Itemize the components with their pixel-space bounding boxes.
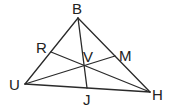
label-H: H	[152, 86, 163, 103]
label-M: M	[119, 47, 132, 64]
label-J: J	[83, 91, 91, 108]
triangle-diagram: BUHRMJV	[0, 0, 174, 112]
label-B: B	[72, 0, 82, 17]
segment-BU	[25, 18, 78, 84]
label-V: V	[83, 48, 93, 65]
label-R: R	[36, 39, 47, 56]
label-U: U	[9, 76, 20, 93]
